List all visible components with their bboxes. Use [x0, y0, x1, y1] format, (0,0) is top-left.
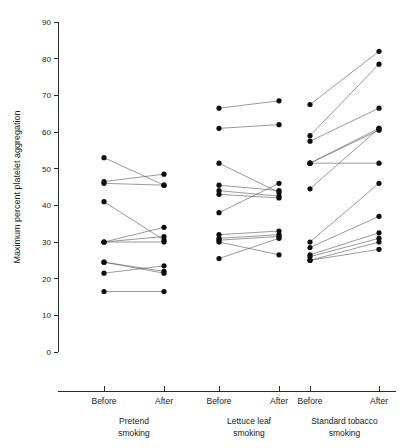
y-tick-label: 50 [42, 165, 51, 174]
data-point-after [376, 161, 381, 166]
group-label-line2: smoking [329, 428, 361, 438]
data-point-after [161, 239, 166, 244]
pair-connector-line [310, 51, 379, 104]
data-point-before [307, 133, 312, 138]
x-axis-ticks: BeforeAfterBeforeAfterBeforeAfter [91, 386, 388, 406]
data-point-before [307, 102, 312, 107]
data-point-after [376, 126, 381, 131]
data-point-after [276, 195, 281, 200]
pair-connector-line [104, 174, 164, 181]
data-point-before [216, 161, 221, 166]
pair-connector-line [104, 237, 164, 243]
data-point-before [216, 239, 221, 244]
group-label-line1: Lettuce leaf [227, 416, 272, 426]
y-axis-title: Maximum percent platelet aggregation [12, 110, 22, 263]
x-tick-label-after: After [370, 396, 388, 406]
pair-connector-line [310, 238, 379, 256]
data-point-before [307, 258, 312, 263]
data-point-before [307, 161, 312, 166]
data-point-after [276, 122, 281, 127]
data-point-before [216, 256, 221, 261]
data-point-after [376, 106, 381, 111]
y-tick-label: 70 [42, 91, 51, 100]
data-point-before [101, 239, 106, 244]
pair-connector-line [310, 128, 379, 189]
pair-connector-line [104, 183, 164, 185]
data-point-before [216, 183, 221, 188]
data-point-after [376, 214, 381, 219]
y-tick-label: 10 [42, 311, 51, 320]
pair-connector-line [104, 262, 164, 273]
data-point-before [216, 126, 221, 131]
y-axis-ticks: 0102030405060708090 [42, 18, 58, 357]
data-point-after [376, 239, 381, 244]
data-point-before [307, 139, 312, 144]
chart-labels: PretendsmokingLettuce leafsmokingStandar… [12, 110, 378, 438]
x-tick-label-before: Before [91, 396, 116, 406]
data-point-before [101, 155, 106, 160]
data-point-before [101, 271, 106, 276]
data-point-after [376, 230, 381, 235]
pair-connector-line [219, 194, 279, 198]
data-point-after [376, 247, 381, 252]
platelet-aggregation-chart: 0102030405060708090 BeforeAfterBeforeAft… [0, 0, 405, 448]
group-label-line1: Pretend [119, 416, 149, 426]
pair-connector-line [219, 235, 279, 239]
data-point-after [161, 172, 166, 177]
x-tick-label-after: After [270, 396, 288, 406]
data-point-after [161, 271, 166, 276]
pair-connector-line [219, 191, 279, 197]
data-point-before [216, 210, 221, 215]
data-point-after [276, 188, 281, 193]
data-point-before [307, 239, 312, 244]
y-tick-label: 60 [42, 128, 51, 137]
data-point-before [101, 260, 106, 265]
data-point-before [216, 192, 221, 197]
data-point-after [161, 183, 166, 188]
data-point-before [101, 181, 106, 186]
group-label-line1: Standard tobacco [311, 416, 378, 426]
y-tick-label: 40 [42, 201, 51, 210]
pair-connector-line [310, 233, 379, 255]
pair-connector-line [219, 101, 279, 108]
group-label-line2: smoking [233, 428, 265, 438]
data-point-after [161, 225, 166, 230]
data-point-after [376, 62, 381, 67]
pair-connector-line [219, 238, 279, 258]
x-tick-label-before: Before [297, 396, 322, 406]
pair-connector-line [104, 158, 164, 186]
y-tick-label: 30 [42, 238, 51, 247]
data-point-after [161, 234, 166, 239]
x-tick-label-before: Before [206, 396, 231, 406]
data-point-after [161, 263, 166, 268]
pair-connector-line [219, 237, 279, 241]
data-point-before [101, 199, 106, 204]
data-point-after [276, 181, 281, 186]
data-point-after [276, 252, 281, 257]
data-point-before [307, 245, 312, 250]
y-tick-label: 80 [42, 55, 51, 64]
group-label-line2: smoking [118, 428, 150, 438]
data-point-before [216, 106, 221, 111]
pair-connector-line [310, 183, 379, 242]
data-point-after [376, 49, 381, 54]
data-point-before [307, 186, 312, 191]
pair-connector-line [219, 231, 279, 235]
data-point-before [101, 289, 106, 294]
y-tick-label: 20 [42, 275, 51, 284]
data-point-after [276, 98, 281, 103]
y-tick-label: 90 [42, 18, 51, 27]
chart-svg: 0102030405060708090 BeforeAfterBeforeAft… [0, 0, 405, 448]
pair-connector-line [219, 125, 279, 129]
pair-connector-line [310, 216, 379, 247]
x-tick-label-after: After [155, 396, 173, 406]
data-point-after [276, 236, 281, 241]
data-point-after [376, 181, 381, 186]
data-point-after [161, 289, 166, 294]
data-series [101, 49, 381, 294]
y-tick-label: 0 [47, 348, 52, 357]
